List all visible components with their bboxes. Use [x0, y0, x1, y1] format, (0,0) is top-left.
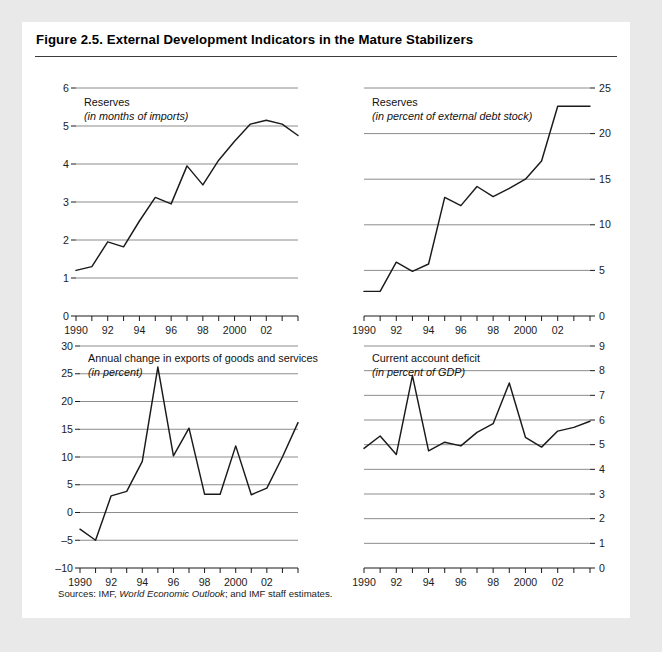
figure-panel: Figure 2.5. External Development Indicat…: [22, 22, 630, 618]
chart-subtitle: (in percent): [88, 366, 318, 380]
chart-title: Reserves: [84, 96, 188, 110]
y-axis-label: 3: [599, 489, 629, 500]
chart-caption-annual-change-exports: Annual change in exports of goods and se…: [88, 352, 318, 380]
data-series-line: [76, 120, 298, 270]
y-axis-label: 5: [599, 439, 629, 450]
y-axis-label: 6: [36, 83, 69, 94]
y-axis-label: 0: [599, 311, 629, 322]
x-axis-label: 02: [247, 577, 287, 588]
y-axis-label: 8: [599, 365, 629, 376]
y-axis-label: 1: [36, 273, 69, 284]
y-axis-label: 9: [599, 341, 629, 352]
y-axis-label: 4: [599, 464, 629, 475]
data-series-line: [80, 367, 298, 540]
y-axis-label: 25: [36, 368, 73, 379]
chart-caption-current-account-deficit: Current account deficit(in percent of GD…: [372, 352, 480, 380]
sources-prefix: Sources: IMF,: [58, 588, 119, 599]
chart-title: Current account deficit: [372, 352, 480, 366]
chart-panel-current-account-deficit: 0123456789199092949698200002Current acco…: [332, 332, 618, 584]
sources-note: Sources: IMF, World Economic Outlook; an…: [58, 588, 332, 599]
y-axis-label: 5: [36, 121, 69, 132]
figure-title: Figure 2.5. External Development Indicat…: [36, 32, 473, 47]
y-axis-label: 2: [36, 235, 69, 246]
y-axis-label: 10: [599, 219, 629, 230]
sources-publication: World Economic Outlook: [119, 588, 225, 599]
y-axis-label: 30: [36, 341, 73, 352]
y-axis-label: 6: [599, 415, 629, 426]
y-axis-label: 5: [599, 265, 629, 276]
chart-title: Annual change in exports of goods and se…: [88, 352, 318, 366]
y-axis-label: 0: [36, 507, 73, 518]
y-axis-label: 25: [599, 83, 629, 94]
y-axis-label: 20: [36, 396, 73, 407]
chart-panel-annual-change-exports: –10–5051015202530199092949698200002Annua…: [36, 332, 318, 584]
x-axis-label: 02: [538, 577, 578, 588]
chart-caption-reserves-months-imports: Reserves(in months of imports): [84, 96, 188, 124]
y-axis-label: 2: [599, 513, 629, 524]
chart-subtitle: (in percent of external debt stock): [372, 110, 532, 124]
chart-title: Reserves: [372, 96, 532, 110]
y-axis-label: 0: [599, 563, 629, 574]
y-axis-label: 0: [36, 311, 69, 322]
chart-panel-reserves-percent-external-debt: 0510152025199092949698200002Reserves(in …: [332, 74, 618, 330]
chart-panel-reserves-months-imports: 0123456199092949698200002Reserves(in mon…: [36, 74, 318, 330]
y-axis-label: –10: [36, 563, 73, 574]
y-axis-label: 10: [36, 452, 73, 463]
y-axis-label: 3: [36, 197, 69, 208]
y-axis-label: 20: [599, 128, 629, 139]
y-axis-label: 1: [599, 538, 629, 549]
y-axis-label: –5: [36, 535, 73, 546]
title-divider: [35, 56, 617, 57]
y-axis-label: 5: [36, 479, 73, 490]
y-axis-label: 15: [36, 424, 73, 435]
data-series-line: [364, 376, 590, 455]
y-axis-label: 4: [36, 159, 69, 170]
chart-caption-reserves-percent-external-debt: Reserves(in percent of external debt sto…: [372, 96, 532, 124]
sources-suffix: ; and IMF staff estimates.: [225, 588, 333, 599]
y-axis-label: 7: [599, 390, 629, 401]
chart-subtitle: (in percent of GDP): [372, 366, 480, 380]
y-axis-label: 15: [599, 174, 629, 185]
chart-subtitle: (in months of imports): [84, 110, 188, 124]
